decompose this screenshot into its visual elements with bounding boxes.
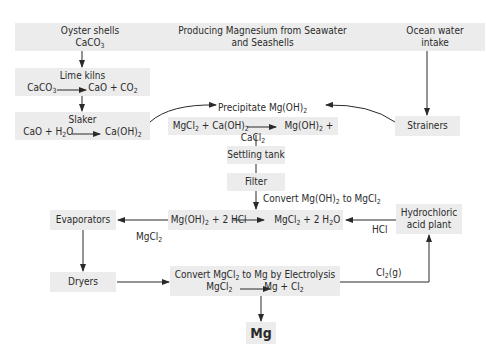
flow-connectors — [0, 0, 486, 349]
